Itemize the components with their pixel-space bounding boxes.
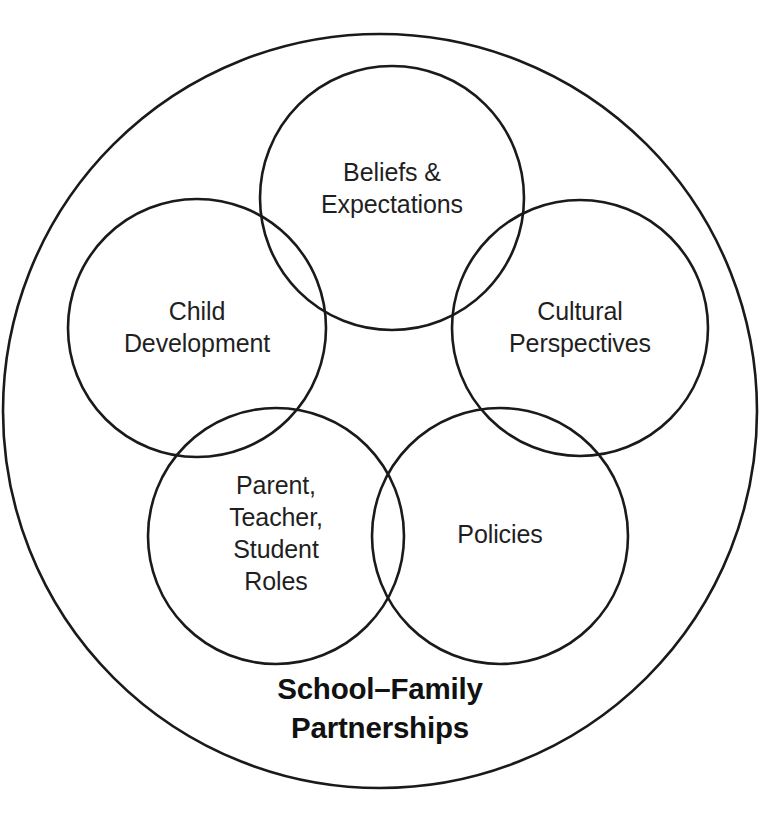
label-line: Beliefs & (343, 158, 441, 186)
label-line: Perspectives (509, 329, 651, 357)
label-policies: Policies (457, 520, 542, 548)
label-line: Parent, (236, 471, 316, 499)
label-parent-teacher-student-roles: Parent, Teacher, Student Roles (229, 471, 323, 595)
caption-line-2: Partnerships (291, 711, 469, 744)
label-line: Expectations (321, 190, 463, 218)
label-beliefs-expectations: Beliefs & Expectations (321, 158, 463, 218)
label-cultural-perspectives: Cultural Perspectives (509, 297, 651, 357)
caption-line-1: School–Family (277, 672, 483, 705)
label-child-development: Child Development (124, 297, 270, 357)
label-line: Child (169, 297, 225, 325)
label-line: Cultural (537, 297, 622, 325)
label-line: Teacher, (229, 503, 323, 531)
diagram-canvas: Beliefs & Expectations Child Development… (0, 0, 766, 814)
caption-school-family-partnerships: School–Family Partnerships (277, 672, 483, 744)
venn-diagram-svg: Beliefs & Expectations Child Development… (0, 0, 766, 814)
label-line: Student (233, 535, 319, 563)
label-line: Development (124, 329, 270, 357)
label-line: Policies (457, 520, 542, 548)
label-line: Roles (244, 567, 307, 595)
